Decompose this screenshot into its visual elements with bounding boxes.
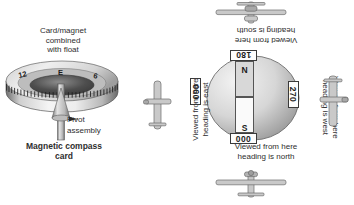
magnet-south-bar: S bbox=[235, 97, 254, 133]
viewed-from-here-north-label: Viewed from here heading is north bbox=[201, 142, 331, 161]
pivot-label-line-1: Pivot bbox=[67, 115, 85, 124]
viewed-north-line-1: Viewed from here bbox=[235, 142, 298, 151]
magnetic-compass-card-title: Magnetic compass card bbox=[8, 141, 120, 161]
airplane-bottom-icon bbox=[213, 170, 289, 200]
compass-card-title-line-1: Magnetic compass bbox=[26, 141, 102, 151]
pivot-label-line-2: assembly bbox=[67, 126, 101, 135]
dial-mark-E: E bbox=[58, 68, 63, 77]
pivot-assembly-label: Pivot assembly bbox=[67, 115, 101, 136]
heading-180-box: 180 bbox=[230, 50, 257, 61]
viewed-from-here-south-label: Viewed from here heading is south bbox=[201, 26, 331, 45]
airplane-left-icon bbox=[143, 79, 173, 131]
airplane-right-icon bbox=[318, 73, 350, 131]
viewed-east-line-1: Viewed from here bbox=[191, 78, 200, 141]
viewed-east-line-2: heading is east bbox=[200, 83, 209, 137]
viewed-north-line-2: heading is north bbox=[238, 152, 295, 161]
magnet-north-bar: N bbox=[235, 61, 254, 97]
airplane-top-icon bbox=[213, 0, 289, 26]
viewed-from-here-east-label: Viewed from here heading is east bbox=[191, 45, 210, 175]
viewed-south-line-2: heading is south bbox=[237, 27, 295, 36]
viewed-south-line-1: Viewed from here bbox=[235, 36, 298, 45]
magnet-bar-group: N S bbox=[202, 57, 287, 137]
compass-card-title-line-2: card bbox=[55, 151, 73, 161]
heading-270-box: 270 bbox=[288, 81, 299, 108]
heading-orientation-panel: N S 180 000 090 270 Viewed from here hea… bbox=[177, 0, 354, 205]
